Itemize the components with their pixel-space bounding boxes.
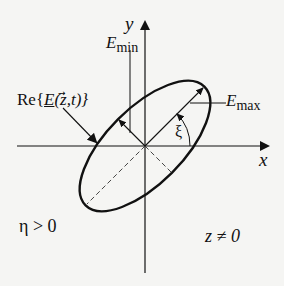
e-max-label: Emax <box>226 92 261 109</box>
e-max-base: E <box>226 91 236 110</box>
x-axis-label: x <box>259 150 267 169</box>
e-max-sub: max <box>236 98 260 113</box>
e-min-base: E <box>106 33 116 52</box>
polarization-diagram: y x Emin Emax Re{E(z,t)} → ξ η > 0 z ≠ 0 <box>0 0 284 286</box>
e-min-label: Emin <box>106 34 138 51</box>
field-label-pointer <box>63 108 96 142</box>
major-axis-dashed <box>87 146 145 204</box>
field-re: Re{ <box>17 90 44 109</box>
vector-arrow-icon: → <box>58 89 66 98</box>
field-vector: E <box>44 90 54 109</box>
angle-label: ξ <box>175 124 182 140</box>
z-condition-label: z ≠ 0 <box>205 227 240 245</box>
diagram-canvas <box>0 0 284 286</box>
eta-condition-label: η > 0 <box>19 217 57 235</box>
minor-axis-dashed <box>145 146 172 173</box>
e-min-sub: min <box>116 40 138 55</box>
field-expression-label: Re{E(z,t)} <box>17 91 88 108</box>
major-axis-arrow <box>145 88 203 146</box>
y-axis-label: y <box>125 14 133 33</box>
minor-axis-arrow <box>119 120 145 146</box>
